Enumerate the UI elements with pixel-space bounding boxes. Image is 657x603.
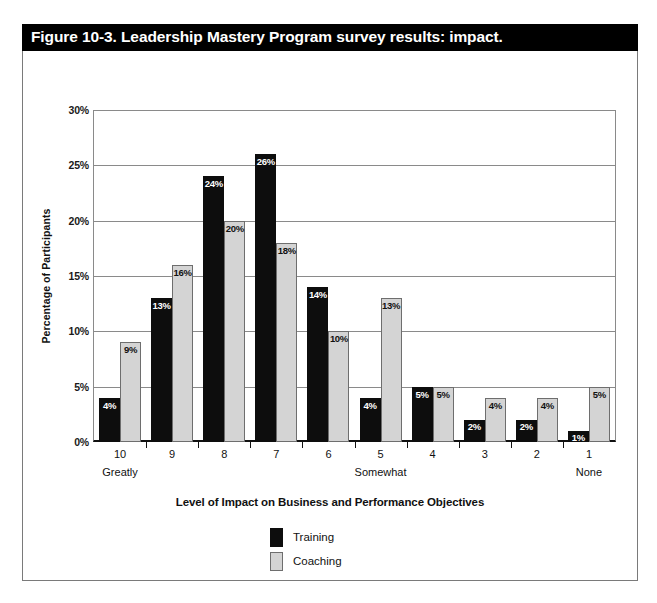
bar-chart: Percentage of Participants 0%5%10%15%20%… xyxy=(23,51,637,579)
figure-title: Figure 10-3. Leadership Mastery Program … xyxy=(31,28,503,46)
x-axis-tick-label: 8 xyxy=(221,448,227,460)
bar-value-label: 5% xyxy=(437,390,450,400)
bar-training-5[interactable]: 4% xyxy=(360,398,381,442)
bar-value-label: 16% xyxy=(174,268,192,278)
bar-group: 14%10% xyxy=(302,110,354,442)
bar-value-label: 13% xyxy=(153,301,171,311)
bar-value-label: 9% xyxy=(124,345,137,355)
bar-training-1[interactable]: 1% xyxy=(568,431,589,442)
bar-coaching-9[interactable]: 16% xyxy=(172,265,193,442)
bar-training-7[interactable]: 26% xyxy=(255,154,276,442)
bar-coaching-4[interactable]: 5% xyxy=(433,387,454,442)
bar-value-label: 4% xyxy=(541,401,554,411)
bar-value-label: 20% xyxy=(226,224,244,234)
x-axis-tick-label: 10 xyxy=(114,448,126,460)
x-axis-anchor-label: Somewhat xyxy=(355,466,407,478)
x-axis-tick-label: 2 xyxy=(534,448,540,460)
bar-group: 5%5% xyxy=(407,110,459,442)
x-axis-tick-label: 6 xyxy=(325,448,331,460)
bar-coaching-3[interactable]: 4% xyxy=(485,398,506,442)
bars-layer: 4%9%13%16%24%20%26%18%14%10%4%13%5%5%2%4… xyxy=(94,110,615,442)
y-axis-tick-label: 25% xyxy=(53,159,89,171)
bar-value-label: 2% xyxy=(468,422,481,432)
bar-value-label: 4% xyxy=(103,401,116,411)
y-axis-tick-labels: 0%5%10%15%20%25%30% xyxy=(45,110,89,442)
x-axis-title: Level of Impact on Business and Performa… xyxy=(23,496,637,508)
legend-label: Training xyxy=(293,531,334,543)
figure-title-bar: Figure 10-3. Leadership Mastery Program … xyxy=(22,24,638,51)
bar-training-10[interactable]: 4% xyxy=(99,398,120,442)
bar-coaching-6[interactable]: 10% xyxy=(328,331,349,442)
legend-label: Coaching xyxy=(293,555,342,567)
bar-training-4[interactable]: 5% xyxy=(412,387,433,442)
y-axis-tick-label: 10% xyxy=(53,325,89,337)
x-axis-tick-label: 4 xyxy=(430,448,436,460)
legend-swatch-training xyxy=(270,528,283,547)
x-axis-tick-label: 1 xyxy=(586,448,592,460)
x-axis-anchor-label: Greatly xyxy=(102,466,137,478)
bar-value-label: 26% xyxy=(257,157,275,167)
x-axis-tick-label: 7 xyxy=(273,448,279,460)
bar-training-3[interactable]: 2% xyxy=(464,420,485,442)
bar-group: 24%20% xyxy=(198,110,250,442)
bar-group: 1%5% xyxy=(563,110,615,442)
bar-group: 26%18% xyxy=(250,110,302,442)
bar-value-label: 14% xyxy=(309,290,327,300)
bar-group: 13%16% xyxy=(146,110,198,442)
bar-value-label: 1% xyxy=(572,433,585,443)
legend-swatch-coaching xyxy=(270,552,283,571)
x-axis-anchor-label: None xyxy=(576,466,602,478)
bar-value-label: 10% xyxy=(330,334,348,344)
bar-value-label: 18% xyxy=(278,246,296,256)
legend-item[interactable]: Training xyxy=(23,525,637,549)
y-axis-tick-label: 30% xyxy=(53,104,89,116)
bar-value-label: 13% xyxy=(382,301,400,311)
bar-value-label: 24% xyxy=(205,179,223,189)
bar-coaching-10[interactable]: 9% xyxy=(120,342,141,442)
x-axis-tick-label: 3 xyxy=(482,448,488,460)
bar-training-8[interactable]: 24% xyxy=(203,176,224,442)
bar-coaching-5[interactable]: 13% xyxy=(381,298,402,442)
bar-group: 4%9% xyxy=(94,110,146,442)
figure-body: Percentage of Participants 0%5%10%15%20%… xyxy=(22,51,638,581)
x-axis-tick-labels: 10987654321 xyxy=(94,448,615,464)
bar-value-label: 5% xyxy=(416,390,429,400)
x-axis-tick-label: 9 xyxy=(169,448,175,460)
bar-coaching-8[interactable]: 20% xyxy=(224,221,245,442)
x-axis-tick-label: 5 xyxy=(377,448,383,460)
chart-legend: TrainingCoaching xyxy=(23,525,637,573)
bar-training-2[interactable]: 2% xyxy=(516,420,537,442)
y-axis-tick-label: 5% xyxy=(53,381,89,393)
x-axis-anchor-labels: GreatlySomewhatNone xyxy=(94,466,615,482)
bar-group: 2%4% xyxy=(459,110,511,442)
y-axis-tick-label: 0% xyxy=(53,436,89,448)
bar-coaching-2[interactable]: 4% xyxy=(537,398,558,442)
bar-coaching-7[interactable]: 18% xyxy=(276,243,297,442)
y-axis-tick-label: 15% xyxy=(53,270,89,282)
bar-coaching-1[interactable]: 5% xyxy=(589,387,610,442)
bar-group: 2%4% xyxy=(511,110,563,442)
bar-training-9[interactable]: 13% xyxy=(151,298,172,442)
bar-group: 4%13% xyxy=(355,110,407,442)
bar-value-label: 2% xyxy=(520,422,533,432)
figure-frame: Figure 10-3. Leadership Mastery Program … xyxy=(22,24,638,581)
bar-value-label: 5% xyxy=(593,390,606,400)
legend-item[interactable]: Coaching xyxy=(23,549,637,573)
bar-value-label: 4% xyxy=(489,401,502,411)
bar-value-label: 4% xyxy=(363,401,376,411)
bar-training-6[interactable]: 14% xyxy=(307,287,328,442)
y-axis-tick-label: 20% xyxy=(53,215,89,227)
